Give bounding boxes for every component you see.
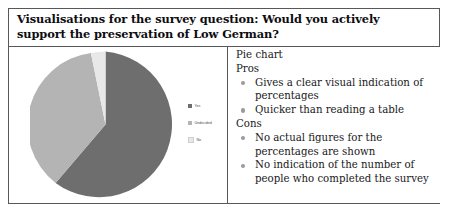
bullet-icon: [241, 81, 245, 85]
list-item: Gives a clear visual indication of perce…: [236, 76, 436, 104]
cons-list: No actual figures for the percentages ar…: [236, 131, 436, 186]
legend-label: Undecided: [195, 121, 212, 126]
legend-label: Yes: [195, 104, 201, 109]
bullet-icon: [241, 164, 245, 168]
legend-item-no: No: [188, 134, 228, 146]
pie-chart-svg: [30, 49, 181, 200]
pie-chart: [30, 49, 181, 200]
list-item-label: No actual figures for the percentages ar…: [255, 132, 382, 157]
cons-heading: Cons: [236, 117, 436, 131]
list-item: Quicker than reading a table: [236, 103, 436, 117]
page-title: Visualisations for the survey question: …: [17, 12, 431, 43]
bullet-icon: [241, 136, 245, 140]
legend-item-yes: Yes: [188, 100, 228, 112]
list-item: No actual figures for the percentages ar…: [236, 131, 436, 159]
commentary-cell: Pie chart Pros Gives a clear visual indi…: [228, 47, 441, 203]
figure-container: Visualisations for the survey question: …: [0, 0, 449, 217]
legend-item-undecided: Undecided: [188, 117, 228, 129]
list-item-label: Quicker than reading a table: [255, 104, 404, 115]
pros-heading: Pros: [236, 62, 436, 76]
legend-swatch-icon: [188, 137, 194, 143]
figure-table: Visualisations for the survey question: …: [8, 8, 440, 204]
list-item-label: No indication of the number of people wh…: [255, 159, 429, 184]
chart-legend: Yes Undecided No: [188, 100, 228, 151]
legend-label: No: [197, 138, 202, 143]
bullet-icon: [241, 108, 245, 112]
figure-title-row: Visualisations for the survey question: …: [9, 9, 439, 47]
chart-cell: Yes Undecided No: [9, 47, 228, 203]
commentary-content: Pie chart Pros Gives a clear visual indi…: [236, 48, 436, 186]
legend-swatch-icon: [188, 121, 192, 125]
list-item-label: Gives a clear visual indication of perce…: [255, 77, 423, 102]
legend-swatch-icon: [188, 104, 192, 108]
list-item: No indication of the number of people wh…: [236, 158, 436, 186]
commentary-chart-type-label: Pie chart: [236, 48, 436, 62]
figure-body-row: Yes Undecided No Pie chart Pros: [9, 47, 439, 203]
pros-list: Gives a clear visual indication of perce…: [236, 76, 436, 117]
